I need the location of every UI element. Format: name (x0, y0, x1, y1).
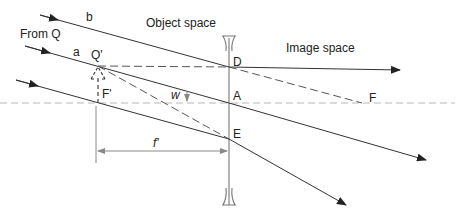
label-f-prime: F' (102, 88, 112, 100)
diverging-lens-diagram: From Q b a Object space Image space Q' F… (0, 0, 461, 215)
label-from-q: From Q (20, 28, 61, 40)
label-f-distance: f' (153, 137, 159, 149)
label-ray-b: b (86, 11, 93, 23)
focal-length-dimension (96, 106, 227, 163)
label-object-space: Object space (146, 17, 216, 29)
label-d: D (233, 56, 242, 68)
label-ray-a: a (73, 46, 80, 58)
label-w: w (171, 89, 180, 101)
label-a: A (233, 90, 241, 102)
label-f: F (369, 92, 376, 104)
label-image-space: Image space (286, 42, 355, 54)
diagram-graphics (0, 0, 461, 215)
label-q-prime: Q' (91, 49, 103, 61)
label-e: E (233, 128, 241, 140)
ray-lower (16, 80, 346, 205)
